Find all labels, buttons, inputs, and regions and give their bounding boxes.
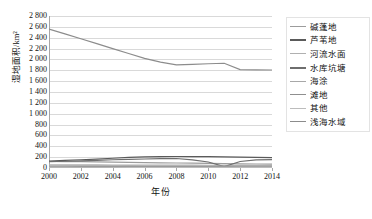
y-axis-tick-label: 1 000: [13, 110, 47, 118]
legend-label: 海涂: [310, 76, 328, 86]
x-axis-tick-mark: [113, 168, 114, 171]
legend-item[interactable]: 水库坑塘: [289, 61, 367, 75]
x-axis-tick-mark: [145, 168, 146, 171]
legend-label: 河流水面: [310, 49, 346, 59]
x-axis-tick-label: 2010: [191, 172, 225, 181]
y-axis-tick-label: 2 400: [13, 34, 47, 42]
x-axis-title: 年份: [49, 187, 272, 198]
legend-item[interactable]: 滩地: [289, 88, 367, 102]
y-axis-tick-label: 1 200: [13, 99, 47, 107]
legend-line-icon: [290, 108, 306, 109]
legend-line-icon: [290, 94, 306, 95]
y-axis-tick-label: 2 800: [13, 12, 47, 20]
x-axis-tick-label: 2008: [159, 172, 193, 181]
y-axis-tick-label: 1 400: [13, 88, 47, 96]
legend-item[interactable]: 其他: [289, 102, 367, 116]
y-axis-tick-label: 2 000: [13, 55, 47, 63]
y-axis-tick-label: 200: [13, 153, 47, 161]
legend-line-icon: [290, 53, 306, 54]
legend-item[interactable]: 碱蓬地: [289, 20, 367, 34]
x-axis-tick-mark: [81, 168, 82, 171]
y-axis-tick-label: 1 800: [13, 66, 47, 74]
x-axis-tick-label: 2012: [223, 172, 257, 181]
series-lines: [49, 16, 272, 168]
legend-label: 滩地: [310, 90, 328, 100]
legend-item[interactable]: 浅海水域: [289, 115, 367, 129]
y-axis-tick-label: 2 200: [13, 45, 47, 53]
x-axis-tick-label: 2006: [128, 172, 162, 181]
y-axis-tick-label: 2 600: [13, 23, 47, 31]
x-axis-tick-mark: [208, 168, 209, 171]
y-axis-tick-label: 400: [13, 142, 47, 150]
legend-line-icon: [290, 26, 306, 27]
legend-label: 芦苇地: [310, 35, 337, 45]
legend-item[interactable]: 海涂: [289, 74, 367, 88]
x-axis-tick-mark: [272, 168, 273, 171]
x-axis-tick-mark: [240, 168, 241, 171]
legend-label: 其他: [310, 103, 328, 113]
legend-line-icon: [290, 67, 306, 69]
x-axis-tick-label: 2014: [255, 172, 289, 181]
legend-label: 浅海水域: [310, 117, 346, 127]
x-axis-tick-label: 2002: [64, 172, 98, 181]
y-axis-tick-label: 1 600: [13, 77, 47, 85]
legend-label: 水库坑塘: [310, 63, 346, 73]
legend-line-icon: [290, 81, 306, 82]
wetland-area-line-chart: 湿地面积/km² 年份 碱蓬地芦苇地河流水面水库坑塘海涂滩地其他浅海水域 2 8…: [0, 0, 372, 219]
y-axis-tick-label: 0: [13, 164, 47, 172]
y-axis-tick-label: 600: [13, 131, 47, 139]
x-axis-tick-mark: [176, 168, 177, 171]
x-axis-tick-label: 2000: [32, 172, 66, 181]
x-axis-tick-label: 2004: [96, 172, 130, 181]
legend: 碱蓬地芦苇地河流水面水库坑塘海涂滩地其他浅海水域: [286, 17, 370, 132]
legend-label: 碱蓬地: [310, 22, 337, 32]
series-line: [49, 29, 272, 70]
legend-line-icon: [290, 39, 306, 41]
legend-item[interactable]: 河流水面: [289, 47, 367, 61]
legend-item[interactable]: 芦苇地: [289, 34, 367, 48]
x-axis-tick-mark: [49, 168, 50, 171]
y-axis-tick-label: 800: [13, 121, 47, 129]
legend-line-icon: [290, 121, 306, 122]
